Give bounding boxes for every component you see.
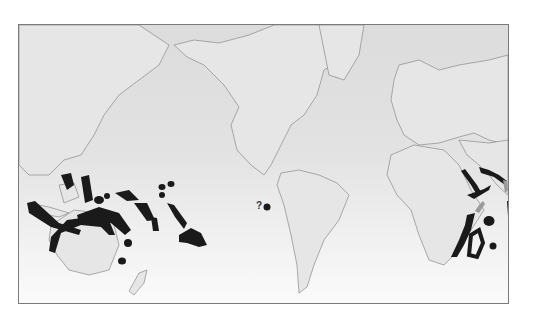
range-central-pacific: [167, 203, 187, 229]
landmass-north-america: [174, 25, 349, 175]
range-eastern-pacific: [264, 204, 271, 211]
range-maldives: [507, 201, 508, 216]
range-new-caledonia: [124, 239, 132, 247]
range-line-isl-1: [159, 184, 166, 190]
range-line-isl-2: [168, 181, 175, 187]
range-micronesia-2: [104, 193, 110, 199]
range-madagascar: [469, 230, 483, 257]
uncertain-range-marker: ?: [256, 200, 262, 211]
landmass-south-america: [277, 170, 349, 293]
landmass-new-zealand: [129, 270, 147, 295]
landmass-asia-east: [19, 25, 169, 175]
range-polynesia: [179, 228, 207, 247]
landmass-europe: [391, 55, 508, 145]
range-line-isl-3: [159, 192, 165, 198]
range-fiji: [118, 258, 126, 265]
range-marshall: [115, 190, 139, 201]
world-map: ?: [18, 24, 509, 304]
range-micronesia-1: [94, 196, 104, 204]
landmass-greenland: [319, 25, 364, 80]
range-vanuatu: [151, 217, 159, 231]
map-canvas: [19, 25, 508, 303]
range-seychelles: [484, 216, 495, 226]
range-borneo: [81, 175, 93, 203]
range-mascarene: [490, 243, 497, 250]
